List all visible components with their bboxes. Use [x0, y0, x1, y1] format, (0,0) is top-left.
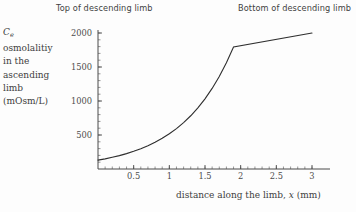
y-tick-label: 500 — [76, 130, 92, 140]
y-tick-label: 2000 — [71, 28, 92, 38]
x-tick-label: 1.5 — [198, 171, 211, 181]
x-tick-label: 2 — [238, 171, 243, 181]
y-axis-tick-labels: 500100015002000 — [71, 28, 92, 140]
x-tick-label: 0.5 — [127, 171, 140, 181]
x-tick-label: 2.5 — [270, 171, 283, 181]
plot-area: 500100015002000 0.511.522.53 — [0, 0, 356, 212]
y-tick-label: 1000 — [71, 96, 92, 106]
chart-page: Top of descending limb Bottom of descend… — [0, 0, 356, 212]
x-axis-major-ticks — [134, 165, 312, 169]
x-axis-tick-labels: 0.511.522.53 — [127, 171, 315, 181]
y-axis-major-ticks — [98, 33, 102, 135]
data-curve-ce — [98, 33, 312, 160]
x-tick-label: 3 — [309, 171, 314, 181]
x-tick-label: 1 — [167, 171, 172, 181]
y-tick-label: 1500 — [71, 62, 92, 72]
